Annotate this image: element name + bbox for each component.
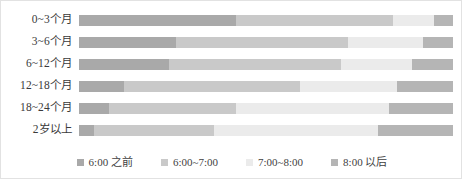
bar-segment bbox=[109, 103, 236, 114]
category-label: 2岁以上 bbox=[1, 124, 79, 136]
legend-label: 6:00~7:00 bbox=[173, 157, 218, 168]
bar-row: 18~24个月 bbox=[1, 97, 462, 119]
legend-swatch-icon bbox=[77, 159, 84, 166]
bar-segment bbox=[236, 15, 393, 26]
legend-item[interactable]: 6:00~7:00 bbox=[161, 157, 218, 168]
legend-item[interactable]: 7:00~8:00 bbox=[246, 157, 303, 168]
bar-row: 12~18个月 bbox=[1, 75, 462, 97]
stacked-bar bbox=[79, 15, 453, 26]
category-label: 6~12个月 bbox=[1, 58, 79, 70]
category-label: 0~3个月 bbox=[1, 14, 79, 26]
bar-segment bbox=[79, 15, 236, 26]
bar-row: 2岁以上 bbox=[1, 119, 462, 141]
stacked-bar bbox=[79, 81, 453, 92]
bar-segment bbox=[412, 59, 453, 70]
chart-container: 0~3个月3~6个月6~12个月12~18个月18~24个月2岁以上 6:00 … bbox=[0, 0, 462, 179]
bar-segment bbox=[79, 81, 124, 92]
bar-row: 3~6个月 bbox=[1, 31, 462, 53]
stacked-bar bbox=[79, 103, 453, 114]
legend-swatch-icon bbox=[246, 159, 253, 166]
bar-segment bbox=[393, 15, 434, 26]
bar-segment bbox=[79, 125, 94, 136]
stacked-bar bbox=[79, 37, 453, 48]
bar-segment bbox=[94, 125, 214, 136]
bar-row: 6~12个月 bbox=[1, 53, 462, 75]
bar-segment bbox=[79, 59, 169, 70]
bar-segment bbox=[236, 103, 389, 114]
bar-segment bbox=[423, 37, 453, 48]
bar-segment bbox=[434, 15, 453, 26]
legend-item[interactable]: 8:00 以后 bbox=[331, 157, 387, 168]
bar-segment bbox=[169, 59, 341, 70]
bar-segment bbox=[124, 81, 300, 92]
legend-label: 8:00 以后 bbox=[343, 157, 387, 168]
bar-segment bbox=[176, 37, 348, 48]
chart-legend: 6:00 之前6:00~7:007:00~8:008:00 以后 bbox=[1, 157, 462, 168]
category-label: 18~24个月 bbox=[1, 102, 79, 114]
bar-segment bbox=[214, 125, 379, 136]
category-label: 3~6个月 bbox=[1, 36, 79, 48]
bar-segment bbox=[348, 37, 423, 48]
bar-segment bbox=[397, 81, 453, 92]
bar-segment bbox=[300, 81, 397, 92]
bar-segment bbox=[79, 37, 176, 48]
bar-segment bbox=[341, 59, 412, 70]
legend-item[interactable]: 6:00 之前 bbox=[77, 157, 133, 168]
stacked-bar bbox=[79, 125, 453, 136]
legend-label: 7:00~8:00 bbox=[258, 157, 303, 168]
category-label: 12~18个月 bbox=[1, 80, 79, 92]
bar-segment bbox=[79, 103, 109, 114]
legend-swatch-icon bbox=[331, 159, 338, 166]
legend-label: 6:00 之前 bbox=[89, 157, 133, 168]
bar-segment bbox=[378, 125, 453, 136]
bar-segment bbox=[389, 103, 453, 114]
bar-row: 0~3个月 bbox=[1, 9, 462, 31]
legend-swatch-icon bbox=[161, 159, 168, 166]
stacked-bar bbox=[79, 59, 453, 70]
plot-area: 0~3个月3~6个月6~12个月12~18个月18~24个月2岁以上 bbox=[1, 9, 462, 143]
